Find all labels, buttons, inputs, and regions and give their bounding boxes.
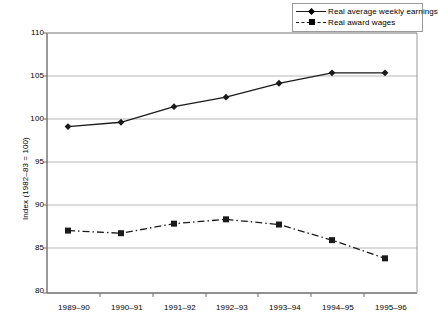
x-tick-1993-94: 1993–94 xyxy=(255,303,315,312)
x-tick-1992-93: 1992–93 xyxy=(202,303,262,312)
x-tick-1989-90: 1989–90 xyxy=(44,303,104,312)
x-tick-1991-92: 1991–92 xyxy=(150,303,210,312)
x-tick-1990-91: 1990–91 xyxy=(97,303,157,312)
x-tick-1994-95: 1994–95 xyxy=(308,303,368,312)
x-tick-1995-96: 1995–96 xyxy=(361,303,421,312)
